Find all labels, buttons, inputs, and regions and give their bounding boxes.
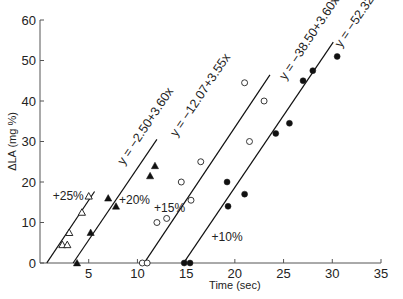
x-tick-label: 10: [130, 266, 144, 281]
data-point-circle: [246, 139, 252, 145]
data-point-triangle: [151, 162, 158, 168]
data-point-triangle: [78, 209, 85, 215]
data-point-circle: [273, 130, 279, 136]
x-tick-label: 5: [85, 266, 92, 281]
data-point-triangle: [146, 172, 153, 178]
x-tick-label: 15: [179, 266, 193, 281]
data-point-circle: [261, 98, 267, 104]
annotations: +25%+20%+15%+10%: [53, 189, 243, 244]
fit-lines: y = −2.50+3.60xy = −12.07+3.55xy = −38.5…: [47, 0, 399, 263]
data-point-circle: [242, 191, 248, 197]
y-tick-label: 0: [29, 256, 36, 271]
x-axis-label: Time (sec): [209, 279, 261, 291]
data-point-circle: [198, 159, 204, 165]
data-point-circle: [154, 220, 160, 226]
series-label: +25%: [53, 189, 84, 203]
data-point-circle: [310, 68, 316, 74]
series-label: +10%: [212, 230, 243, 244]
data-point-circle: [188, 197, 194, 203]
y-tick-label: 10: [22, 215, 36, 230]
data-point-triangle: [105, 195, 112, 201]
data-point-circle: [300, 78, 306, 84]
data-point-circle: [224, 179, 230, 185]
x-tick-label: 25: [276, 266, 290, 281]
y-tick-label: 20: [22, 175, 36, 190]
x-tick-label: 35: [374, 266, 388, 281]
fit-equation-label: y = −52.32+3.55x: [332, 0, 398, 50]
data-point-circle: [164, 215, 170, 221]
data-point-triangle: [64, 241, 71, 247]
axes: 01020304050605101520253035: [22, 13, 389, 282]
fit-equation-label: y = −12.07+3.55x: [167, 50, 233, 139]
data-point-circle: [178, 179, 184, 185]
data-point-circle: [187, 260, 193, 266]
data-point-circle: [181, 260, 187, 266]
data-point-circle: [225, 203, 231, 209]
chart: 01020304050605101520253035 y = −2.50+3.6…: [0, 0, 403, 299]
y-tick-label: 30: [22, 134, 36, 149]
y-axis-label: ΔLA (mg %): [6, 112, 18, 171]
series-label: +15%: [154, 201, 185, 215]
data-point-triangle: [87, 229, 94, 235]
data-point-circle: [242, 80, 248, 86]
data-point-circle: [144, 260, 150, 266]
y-tick-label: 50: [22, 53, 36, 68]
data-point-circle: [286, 120, 292, 126]
x-tick-label: 30: [325, 266, 339, 281]
series-label: +20%: [119, 193, 150, 207]
y-tick-label: 60: [22, 13, 36, 28]
data-point-circle: [334, 53, 340, 59]
y-tick-label: 40: [22, 94, 36, 109]
